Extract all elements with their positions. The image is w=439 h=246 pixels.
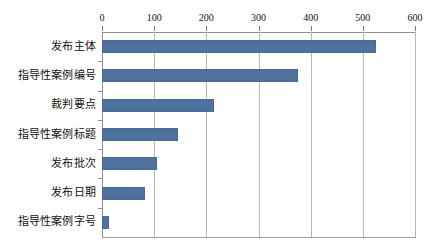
- y-tick-mark: [98, 178, 103, 179]
- bar: [102, 69, 298, 82]
- x-axis-tick-group: 0100200300400500600: [102, 12, 416, 32]
- bar: [102, 99, 214, 112]
- x-tick-label-0: 0: [100, 12, 105, 24]
- x-tick-label-100: 100: [147, 12, 162, 24]
- bar-chart: 0100200300400500600 发布主体指导性案例编号裁判要点指导性案例…: [0, 0, 439, 246]
- y-axis-category-label: 裁判要点: [0, 99, 96, 111]
- y-tick-mark: [98, 61, 103, 62]
- y-tick-mark: [98, 208, 103, 209]
- y-tick-mark: [98, 149, 103, 150]
- bar: [102, 128, 178, 141]
- gridline-400: [311, 32, 312, 237]
- x-tick-label-500: 500: [355, 12, 370, 24]
- x-tick-mark-400: [311, 26, 312, 31]
- y-axis-category-label: 指导性案例字号: [0, 216, 96, 228]
- x-tick-label-300: 300: [251, 12, 266, 24]
- x-tick-mark-0: [102, 26, 103, 31]
- y-axis-category-label: 指导性案例编号: [0, 70, 96, 82]
- x-tick-label-200: 200: [199, 12, 214, 24]
- y-axis-category-label: 发布日期: [0, 187, 96, 199]
- bar: [102, 187, 145, 200]
- gridline-500: [363, 32, 364, 237]
- x-tick-mark-600: [415, 26, 416, 31]
- gridline-200: [206, 32, 207, 237]
- y-tick-mark: [98, 120, 103, 121]
- x-tick-label-600: 600: [408, 12, 423, 24]
- y-axis-category-label: 发布批次: [0, 158, 96, 170]
- bar: [102, 157, 157, 170]
- plot-area: [102, 32, 415, 237]
- bar: [102, 216, 109, 229]
- x-tick-mark-100: [154, 26, 155, 31]
- gridline-300: [259, 32, 260, 237]
- x-tick-mark-200: [206, 26, 207, 31]
- x-tick-mark-500: [363, 26, 364, 31]
- y-tick-mark: [98, 91, 103, 92]
- x-tick-label-400: 400: [303, 12, 318, 24]
- plot-bottom-line: [102, 237, 416, 238]
- y-axis-label-group: 发布主体指导性案例编号裁判要点指导性案例标题发布批次发布日期指导性案例字号: [0, 32, 100, 237]
- bar: [102, 40, 376, 53]
- gridline-600: [415, 32, 416, 237]
- x-tick-mark-300: [259, 26, 260, 31]
- y-axis-category-label: 发布主体: [0, 41, 96, 53]
- y-axis-category-label: 指导性案例标题: [0, 129, 96, 141]
